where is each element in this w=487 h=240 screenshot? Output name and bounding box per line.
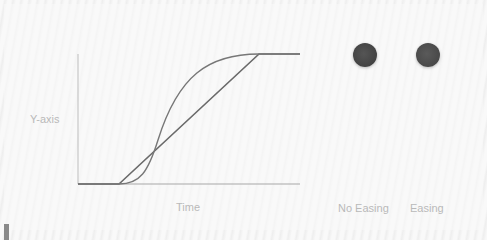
progress-marker — [4, 224, 9, 240]
easing-label: Easing — [410, 202, 444, 214]
y-axis-label: Y-axis — [30, 113, 60, 125]
x-axis-label: Time — [176, 201, 200, 213]
no-easing-label: No Easing — [338, 202, 389, 214]
easing-ball-icon — [416, 43, 440, 67]
no-easing-ball-icon — [353, 43, 377, 67]
linear-curve — [78, 54, 300, 184]
easing-diagram: Y-axis Time No Easing Easing — [0, 0, 487, 240]
